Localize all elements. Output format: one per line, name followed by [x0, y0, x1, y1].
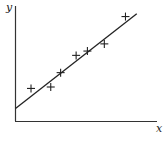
plus-marker-icon — [47, 83, 55, 91]
axes — [15, 6, 157, 122]
y-axis-label: y — [6, 2, 12, 13]
x-axis-label: x — [156, 123, 162, 134]
plus-marker-icon — [27, 84, 35, 92]
regression-line — [16, 14, 137, 109]
plus-marker-icon — [121, 13, 129, 21]
data-points — [27, 13, 129, 93]
scatter-plot — [0, 0, 166, 151]
